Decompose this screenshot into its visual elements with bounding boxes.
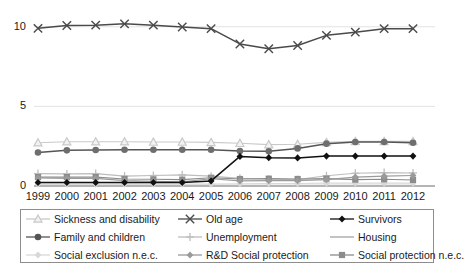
line-chart-svg: [0, 0, 438, 205]
data-point: [352, 152, 359, 159]
x-axis-tick-label: 2002: [110, 190, 140, 202]
legend-label: R&D Social protection: [206, 250, 309, 261]
series-survivors: [35, 152, 417, 186]
legend-item-survivors[interactable]: Survivors: [329, 213, 437, 225]
data-point: [294, 154, 301, 161]
x-axis-tick-label: 2003: [138, 190, 168, 202]
x-axis-tick-label: 2007: [254, 190, 284, 202]
triangle-marker-icon: [25, 213, 51, 225]
data-point: [150, 146, 157, 153]
chart-plot-area: 1050 19992000200120022003200420052006200…: [0, 0, 438, 205]
data-point: [35, 251, 42, 258]
data-point: [323, 140, 330, 147]
data-point: [381, 139, 388, 146]
none-marker-icon: [329, 231, 355, 243]
legend-label: Sickness and disability: [54, 214, 160, 225]
data-point: [339, 252, 345, 258]
series-line: [38, 24, 413, 49]
data-point: [187, 251, 194, 258]
legend-label: Social protection n.e.c.: [358, 250, 464, 261]
x-axis-tick-label: 2010: [340, 190, 370, 202]
diamond-marker-icon: [329, 213, 355, 225]
x-axis-tick-label: 2005: [196, 190, 226, 202]
data-point: [92, 147, 99, 154]
diamond-marker-icon: [25, 249, 51, 261]
legend-item-r-d-social-protection[interactable]: R&D Social protection: [177, 249, 329, 261]
diamond-marker-icon: [177, 249, 203, 261]
series-old-age: [34, 20, 417, 53]
legend-item-family-and-children[interactable]: Family and children: [25, 231, 177, 243]
x-axis-tick-label: 2006: [225, 190, 255, 202]
data-point: [64, 147, 71, 154]
data-point: [410, 152, 417, 159]
data-point: [35, 234, 42, 241]
data-point: [339, 215, 346, 222]
x-axis-tick-label: 1999: [23, 190, 53, 202]
data-point: [352, 139, 359, 146]
cross-marker-icon: [177, 213, 203, 225]
data-point: [265, 154, 272, 161]
plus-marker-icon: [177, 231, 203, 243]
data-point: [381, 152, 388, 159]
legend-grid: Sickness and disabilityOld ageSurvivorsF…: [21, 210, 433, 262]
x-axis-tick-label: 2000: [52, 190, 82, 202]
x-axis-tick-label: 2008: [283, 190, 313, 202]
y-axis-tick-label: 10: [4, 20, 26, 32]
legend-label: Family and children: [54, 232, 145, 243]
data-point: [121, 146, 128, 153]
circle-marker-icon: [25, 231, 51, 243]
x-axis-tick-label: 2009: [311, 190, 341, 202]
legend-label: Housing: [358, 232, 397, 243]
data-point: [179, 146, 186, 153]
data-point: [208, 146, 215, 153]
legend-item-housing[interactable]: Housing: [329, 231, 437, 243]
data-point: [265, 148, 272, 155]
legend-label: Unemployment: [206, 232, 277, 243]
legend-item-old-age[interactable]: Old age: [177, 213, 329, 225]
legend-label: Survivors: [358, 214, 402, 225]
chart-legend: Sickness and disabilityOld ageSurvivorsF…: [20, 209, 434, 263]
legend-item-unemployment[interactable]: Unemployment: [177, 231, 329, 243]
x-axis-tick-label: 2011: [369, 190, 399, 202]
legend-label: Old age: [206, 214, 243, 225]
x-axis-tick-label: 2004: [167, 190, 197, 202]
square-marker-icon: [329, 249, 355, 261]
data-point: [323, 152, 330, 159]
legend-item-social-protection-n-e-c[interactable]: Social protection n.e.c.: [329, 249, 437, 261]
legend-item-social-exclusion-n-e-c[interactable]: Social exclusion n.e.c.: [25, 249, 177, 261]
data-point: [410, 139, 417, 146]
x-axis-tick-label: 2001: [81, 190, 111, 202]
x-axis-tick-label: 2012: [398, 190, 428, 202]
legend-label: Social exclusion n.e.c.: [54, 250, 158, 261]
data-point: [35, 149, 42, 156]
data-point: [294, 145, 301, 152]
legend-item-sickness-and-disability[interactable]: Sickness and disability: [25, 213, 177, 225]
y-axis-tick-label: 5: [4, 99, 26, 111]
series-unemployment: [34, 169, 417, 184]
